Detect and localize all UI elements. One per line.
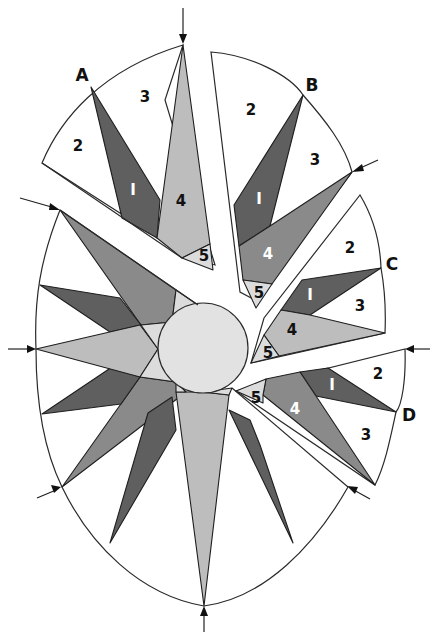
segment-c-letter: C (386, 254, 398, 274)
arrow-upper-left-icon (20, 198, 60, 210)
arrow-lower-left-icon (37, 485, 61, 498)
segment-a-label-2: 2 (73, 137, 83, 155)
segment-c-label-1: I (307, 286, 313, 304)
segment-b-label-1: I (256, 190, 262, 208)
segment-c-label-2: 2 (345, 239, 355, 257)
diagram-canvas: 3 2 I 4 5 A 2 3 I 4 5 B 2 I 3 4 5 C 2 (0, 0, 441, 639)
segment-a: 3 2 I 4 5 A (42, 45, 215, 270)
segment-b-letter: B (306, 75, 319, 95)
segment-b-label-5: 5 (254, 284, 264, 302)
segment-b-label-2: 2 (246, 101, 256, 119)
segment-a-letter: A (75, 65, 89, 85)
point-west-light (36, 325, 158, 377)
arrow-lower-right-icon (347, 486, 370, 499)
segment-d-label-2: 2 (373, 365, 383, 383)
point-south-light (176, 392, 229, 606)
segment-d-label-4: 4 (290, 400, 300, 418)
segment-b-label-3: 3 (310, 151, 320, 169)
segment-a-label-4: 4 (176, 192, 186, 210)
segment-d-label-3: 3 (361, 426, 371, 444)
segment-c-label-3: 3 (355, 297, 365, 315)
arrow-top-icon (179, 8, 187, 44)
segment-c-piece-4 (264, 310, 385, 356)
segment-a-label-5: 5 (199, 247, 209, 265)
segment-a-piece-1 (91, 87, 160, 238)
segment-d-letter: D (402, 405, 416, 425)
center-circle (158, 303, 248, 393)
segment-a-piece-4 (157, 45, 210, 258)
segment-b-label-4: 4 (263, 245, 273, 263)
segment-d-label-1: I (329, 376, 335, 394)
segment-d-label-5: 5 (251, 389, 261, 407)
arrow-left-icon (8, 345, 36, 353)
segment-a-label-3: 3 (140, 88, 150, 106)
point-sse-dark (229, 410, 293, 543)
arrow-bottom-icon (200, 606, 208, 632)
segment-c-piece-1 (281, 268, 381, 315)
segment-c-label-4: 4 (287, 321, 297, 339)
segment-b: 2 3 I 4 5 B (211, 52, 352, 308)
arrow-upper-right-icon (352, 160, 378, 172)
segment-c-label-5: 5 (263, 344, 273, 362)
compass-rose-diagram: 3 2 I 4 5 A 2 3 I 4 5 B 2 I 3 4 5 C 2 (0, 0, 441, 639)
arrow-right-icon (405, 345, 430, 353)
segment-a-label-1: I (130, 181, 136, 199)
